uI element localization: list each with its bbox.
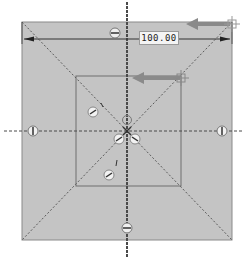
perpendicular-constraint-1-icon[interactable]: [88, 107, 98, 117]
dimension-value-label[interactable]: 100.00: [139, 31, 179, 45]
symmetric-constraint-bottom-icon[interactable]: [122, 223, 132, 233]
symmetric-constraint-top-icon[interactable]: [110, 28, 120, 38]
vertical-constraint-left-icon[interactable]: [28, 126, 38, 136]
vertical-constraint-right-icon[interactable]: [217, 126, 227, 136]
perpendicular-constraint-4-icon[interactable]: [130, 134, 140, 144]
perpendicular-constraint-2-icon[interactable]: [104, 170, 114, 180]
sketch-canvas[interactable]: [0, 0, 248, 262]
perpendicular-constraint-3-icon[interactable]: [114, 134, 124, 144]
